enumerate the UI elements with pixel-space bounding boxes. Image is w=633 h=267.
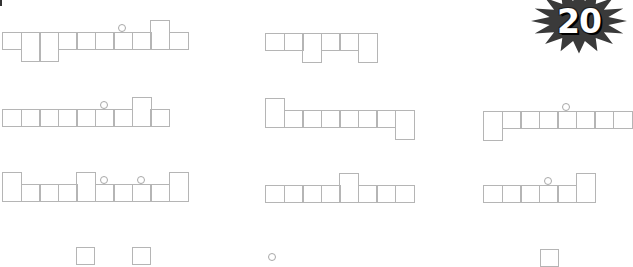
puzzle-cell (132, 184, 152, 202)
puzzle-cell (302, 33, 322, 63)
puzzle-cell (58, 109, 78, 127)
puzzle-cell (321, 33, 341, 51)
puzzle-cell (58, 184, 78, 202)
puzzle-cell (376, 110, 396, 128)
puzzle-cell (113, 184, 133, 202)
puzzle-cell (76, 247, 95, 265)
hint-dot-icon (100, 176, 108, 184)
puzzle-cell (58, 32, 78, 50)
puzzle-cell (576, 111, 596, 129)
puzzle-cell (520, 111, 540, 129)
puzzle-cell (557, 185, 577, 203)
puzzle-cell (284, 185, 304, 203)
puzzle-cell (132, 247, 151, 265)
puzzle-cell (21, 109, 41, 127)
puzzle-cell (39, 109, 59, 127)
puzzle-cell (302, 185, 322, 203)
puzzle-cell (76, 109, 96, 127)
puzzle-cell (339, 110, 359, 128)
puzzle-cell (302, 110, 322, 128)
puzzle-cell (539, 111, 559, 129)
puzzle-cell (265, 185, 285, 203)
puzzle-cell (395, 185, 415, 203)
badge-number: 20 (530, 2, 628, 41)
hint-dot-icon (544, 177, 552, 185)
puzzle-cell (76, 172, 96, 202)
puzzle-cell (150, 184, 170, 202)
puzzle-cell (95, 184, 115, 202)
puzzle-cell (395, 110, 415, 140)
puzzle-cell (576, 173, 596, 203)
puzzle-cell (321, 110, 341, 128)
puzzle-cell (95, 109, 115, 127)
puzzle-cell (76, 32, 96, 50)
puzzle-cell (284, 110, 304, 128)
puzzle-cell (502, 185, 522, 203)
puzzle-cell (169, 32, 189, 50)
puzzle-cell (21, 32, 41, 62)
puzzle-cell (358, 110, 378, 128)
puzzle-cell (113, 109, 133, 127)
puzzle-cell (520, 185, 540, 203)
puzzle-cell (339, 33, 359, 51)
puzzle-cell (21, 184, 41, 202)
puzzle-cell (39, 184, 59, 202)
puzzle-cell (339, 173, 359, 203)
puzzle-cell (540, 249, 559, 267)
hint-dot-icon (562, 103, 570, 111)
puzzle-cell (557, 111, 577, 129)
puzzle-cell (502, 111, 522, 129)
puzzle-cell (376, 185, 396, 203)
puzzle-cell (150, 20, 170, 50)
puzzle-cell (321, 185, 341, 203)
hint-dot-icon (118, 24, 126, 32)
puzzle-cell (2, 32, 22, 50)
puzzle-cell (132, 97, 152, 127)
puzzle-cell (483, 111, 503, 141)
puzzle-cell (169, 172, 189, 202)
puzzle-cell (539, 185, 559, 203)
puzzle-cell (358, 33, 378, 63)
puzzle-cell (358, 185, 378, 203)
puzzle-cell (132, 32, 152, 50)
hint-dot-icon (100, 101, 108, 109)
puzzle-cell (265, 33, 285, 51)
puzzle-cell (150, 109, 170, 127)
puzzle-cell (2, 172, 22, 202)
page-number-badge: 20 (530, 0, 628, 54)
puzzle-cell (284, 33, 304, 51)
puzzle-cell (594, 111, 614, 129)
puzzle-cell (113, 32, 133, 50)
puzzle-cell (95, 32, 115, 50)
puzzle-cell (613, 111, 633, 129)
puzzle-cell (2, 109, 22, 127)
puzzle-cell (265, 98, 285, 128)
puzzle-cell (39, 32, 59, 62)
hint-dot-icon (137, 176, 145, 184)
corner-mark (0, 0, 2, 6)
puzzle-cell (483, 185, 503, 203)
hint-dot-icon (268, 253, 276, 261)
